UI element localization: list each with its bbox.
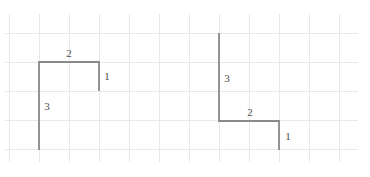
diagram-canvas: 2 1 3 3 2 1: [0, 0, 370, 177]
right-path-upper-segment-label: 3: [224, 73, 230, 84]
right-path-line: [219, 33, 279, 150]
left-path-top-segment-label: 2: [66, 48, 72, 59]
right-path-horizontal-segment-label: 2: [247, 107, 253, 118]
right-path-lower-segment-label: 1: [285, 131, 291, 142]
left-path-right-segment-label: 1: [104, 71, 110, 82]
left-path-left-segment-label: 3: [44, 101, 50, 112]
paths-layer: [0, 0, 370, 177]
